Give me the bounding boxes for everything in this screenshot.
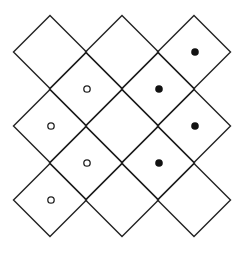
diamond-cell (50, 127, 123, 200)
diamond-cell (86, 90, 159, 163)
diamond-cell (14, 90, 87, 163)
open-circle-icon (84, 160, 90, 166)
diamond-outline (158, 164, 231, 237)
diamond-cell (14, 164, 87, 237)
diamond-grid-diagram (0, 0, 250, 259)
diamond-cell (50, 53, 123, 126)
diamond-cell (122, 127, 195, 200)
diamond-cell (122, 53, 195, 126)
open-circle-icon (84, 86, 90, 92)
filled-dot-icon (191, 48, 199, 56)
open-circle-icon (48, 123, 54, 129)
diamond-cell (158, 90, 231, 163)
diamond-cell (14, 16, 87, 89)
diamond-cell (86, 164, 159, 237)
diamond-outline (86, 90, 159, 163)
diamond-cell (86, 16, 159, 89)
diamond-outline (86, 16, 159, 89)
filled-dot-icon (155, 159, 163, 167)
diamond-cell (158, 164, 231, 237)
open-circle-icon (48, 197, 54, 203)
filled-dot-icon (155, 85, 163, 93)
diamond-outline (14, 16, 87, 89)
diamond-cell (158, 16, 231, 89)
diamond-outline (86, 164, 159, 237)
filled-dot-icon (191, 122, 199, 130)
